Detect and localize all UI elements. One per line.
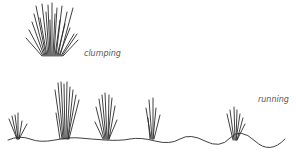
- ground-rhizome-line: [8, 133, 285, 147]
- clumping-label: clumping: [84, 49, 121, 58]
- grass-growth-diagram: [0, 0, 296, 152]
- running-grass-illustration: [8, 82, 285, 148]
- running-label: running: [258, 95, 289, 104]
- clumping-grass-illustration: [26, 3, 78, 56]
